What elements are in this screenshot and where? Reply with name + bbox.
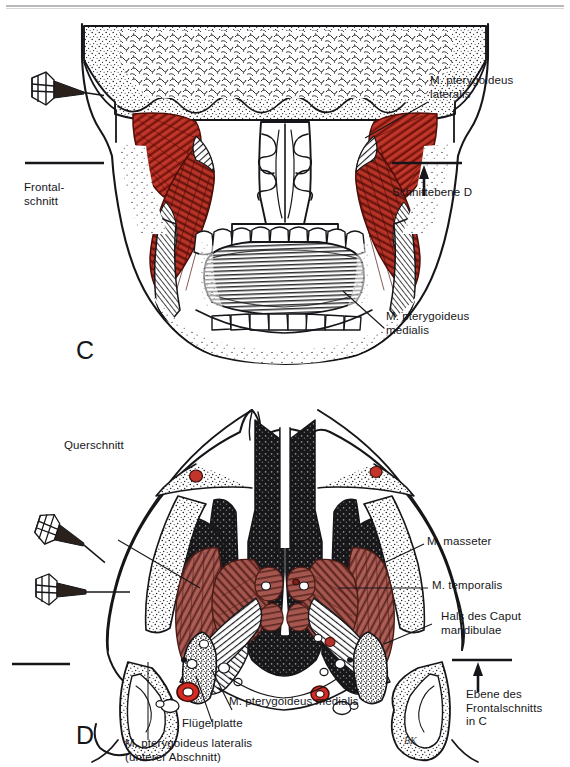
label-m-pterygoideus-medialis-d: M. pterygoideus medialis: [229, 695, 359, 709]
label-m-pterygoideus-lateralis-c: M. pterygoideus lateralis: [430, 74, 513, 101]
panel-letter-d: D: [76, 723, 94, 748]
anatomy-plate-page: M. pterygoideus lateralis M. pterygoideu…: [0, 0, 570, 767]
caption-ebene-des-frontalschnitts-in-c: Ebene des Frontalschnitts in C: [466, 688, 542, 729]
caption-schnittebene-d: Schnittebene D: [392, 186, 472, 200]
panel-letter-c: C: [76, 338, 94, 363]
view-direction-marker-d-upper: [32, 511, 114, 564]
label-m-temporalis: M. temporalis: [432, 579, 502, 593]
caption-frontalschnitt: Frontal- schnitt: [24, 181, 64, 208]
label-m-masseter: M. masseter: [427, 535, 491, 549]
label-m-pterygoideus-lateralis-d: M. pterygoideus lateralis (unterer Absch…: [125, 737, 252, 764]
illustrator-signature: BK: [404, 735, 418, 746]
label-hals-des-caput-mandibulae: Hals des Caput mandibulae: [441, 610, 521, 637]
label-m-pterygoideus-medialis-c: M. pterygoideus medialis: [386, 310, 469, 337]
label-fluegelplatte: Flügelplatte: [182, 717, 243, 731]
page-top-rule: [6, 5, 564, 7]
caption-querschnitt: Querschnitt: [64, 439, 124, 453]
page-top-rule-shadow: [6, 8, 564, 9]
figure-c-frontal-section: [0, 10, 570, 390]
figure-c-illustration: [0, 10, 570, 390]
